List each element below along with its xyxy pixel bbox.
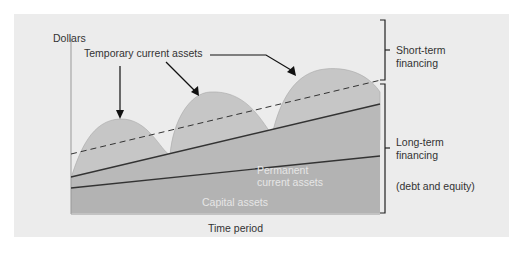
short-term-label-2: financing xyxy=(396,57,438,69)
short-term-label-1: Short-term xyxy=(396,44,446,56)
y-axis-label: Dollars xyxy=(53,32,86,44)
x-axis-label: Time period xyxy=(208,222,263,234)
debt-equity-label: (debt and equity) xyxy=(396,180,475,192)
arrow-head-3 xyxy=(287,66,296,76)
permanent-label-2: current assets xyxy=(257,176,323,188)
short-term-bracket xyxy=(380,20,385,80)
permanent-label-1: Permanent xyxy=(257,164,308,176)
arrow-head-1 xyxy=(116,110,124,119)
temporary-assets-label: Temporary current assets xyxy=(84,47,202,59)
capital-assets-label: Capital assets xyxy=(202,196,268,208)
long-term-bracket xyxy=(380,84,385,213)
long-term-label-1: Long-term xyxy=(396,136,444,148)
long-term-label-2: financing xyxy=(396,149,438,161)
